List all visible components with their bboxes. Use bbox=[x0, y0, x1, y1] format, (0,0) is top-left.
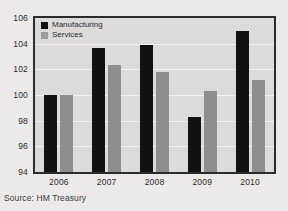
bar-manufacturing-2007 bbox=[92, 48, 105, 172]
bar-manufacturing-2008 bbox=[140, 45, 153, 172]
bar-manufacturing-2010 bbox=[236, 31, 249, 172]
plot-area bbox=[35, 18, 274, 172]
legend-item-services: Services bbox=[41, 31, 103, 39]
plot-frame: ManufacturingServices bbox=[33, 16, 276, 174]
y-tick-label-104: 104 bbox=[4, 39, 28, 49]
x-tick-label-2007: 2007 bbox=[85, 177, 129, 187]
legend-item-manufacturing: Manufacturing bbox=[41, 21, 103, 29]
bar-manufacturing-2006 bbox=[44, 95, 57, 172]
x-tick-label-2006: 2006 bbox=[37, 177, 81, 187]
bar-services-2006 bbox=[60, 95, 73, 172]
y-tick-label-94: 94 bbox=[4, 167, 28, 177]
y-tick-label-96: 96 bbox=[4, 141, 28, 151]
y-tick-label-102: 102 bbox=[4, 64, 28, 74]
chart-legend: ManufacturingServices bbox=[41, 21, 103, 39]
bar-manufacturing-2009 bbox=[188, 117, 201, 172]
y-tick-label-98: 98 bbox=[4, 116, 28, 126]
chart-figure: ... 949698100102104106 ManufacturingServ… bbox=[0, 0, 288, 211]
bar-services-2008 bbox=[156, 72, 169, 172]
bar-services-2010 bbox=[252, 80, 265, 172]
black-square-swatch-icon bbox=[41, 22, 48, 29]
cropped-caption-above: ... bbox=[0, 0, 288, 6]
legend-label: Manufacturing bbox=[52, 21, 103, 29]
y-tick-label-100: 100 bbox=[4, 90, 28, 100]
x-tick-label-2009: 2009 bbox=[180, 177, 224, 187]
x-tick-label-2010: 2010 bbox=[228, 177, 272, 187]
bar-services-2009 bbox=[204, 91, 217, 172]
bar-services-2007 bbox=[108, 65, 121, 172]
x-tick-label-2008: 2008 bbox=[133, 177, 177, 187]
gray-square-swatch-icon bbox=[41, 32, 48, 39]
source-note: Source: HM Treasury bbox=[4, 193, 86, 203]
y-tick-label-106: 106 bbox=[4, 13, 28, 23]
legend-label: Services bbox=[52, 31, 83, 39]
